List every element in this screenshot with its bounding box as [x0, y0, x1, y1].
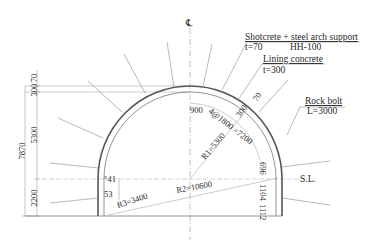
centerline-symbol: ℄: [185, 18, 193, 28]
dim-arch-70: 70: [250, 90, 263, 103]
rockbolt-title: Rock bolt: [305, 96, 343, 106]
dim-1112: 1112: [258, 204, 268, 220]
dim-300: 300: [29, 84, 39, 97]
dim-1104: 1104: [258, 184, 268, 201]
shotcrete-steel: HH-100: [290, 42, 321, 52]
dim-696: 696: [258, 162, 268, 175]
springline-label: S.L.: [300, 174, 316, 184]
dim-top-70: 70: [29, 74, 39, 83]
dim-R1: R1=5300: [199, 131, 227, 162]
dim-angle-41: °41: [104, 174, 116, 184]
dim-7870: 7870: [17, 143, 27, 160]
dim-2200: 2200: [29, 190, 39, 207]
dim-R2: R2=10600: [176, 179, 213, 195]
lining-title: Lining concrete: [263, 54, 323, 64]
dim-5300: 5300: [29, 127, 39, 144]
dim-900: 900: [190, 105, 203, 115]
lining-thickness: t=300: [263, 65, 285, 75]
shotcrete-title: Shotcrete + steel arch support: [245, 32, 358, 42]
tunnel-section-drawing: ℄ S.L. Shotcrete + steel arch support t=…: [0, 0, 373, 248]
shotcrete-thickness: t=70: [245, 42, 263, 52]
dim-angle-53: 53: [104, 189, 113, 199]
rockbolt-length: L=3000: [307, 106, 337, 116]
